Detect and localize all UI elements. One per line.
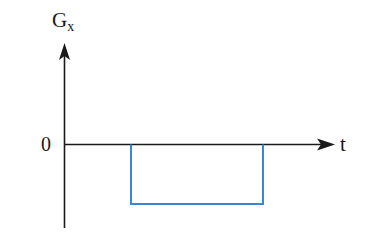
negative-gradient-pulse [131, 145, 263, 205]
x-axis-label: t [340, 132, 346, 156]
y-axis-label: Gx [52, 8, 74, 34]
origin-label: 0 [41, 133, 51, 155]
gradient-pulse-diagram: Gx 0 t [0, 0, 367, 240]
